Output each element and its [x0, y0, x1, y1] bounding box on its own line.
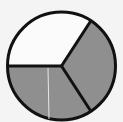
fraction-circle-diagram: 2/3	[0, 0, 123, 122]
fraction-circle-svg	[0, 0, 123, 122]
